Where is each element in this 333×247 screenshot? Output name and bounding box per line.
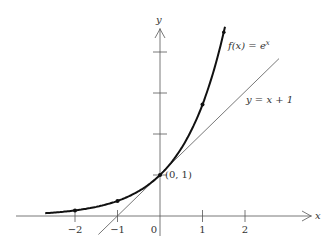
axes: x y: [16, 14, 321, 236]
tangent-line: [98, 59, 279, 235]
x-tick-label: −1: [110, 224, 125, 235]
x-tick-label: 2: [242, 224, 248, 235]
exp-curve: [45, 27, 225, 214]
x-tick-labels: −2 −1 0 1 2: [68, 224, 249, 235]
exponential-tangent-chart: x y −2 −1 0 1 2 (0, 1) f(x) = ex y = x +: [0, 0, 333, 247]
line-label: y = x + 1: [245, 94, 293, 105]
y-axis-label: y: [155, 14, 162, 25]
exp-label: f(x) = ex: [227, 39, 270, 51]
x-tick-label: −2: [68, 224, 83, 235]
point-label: (0, 1): [165, 169, 192, 180]
x-tick-label: 1: [199, 224, 205, 235]
x-axis-label: x: [315, 210, 321, 221]
x-tick-label: 0: [151, 224, 157, 235]
